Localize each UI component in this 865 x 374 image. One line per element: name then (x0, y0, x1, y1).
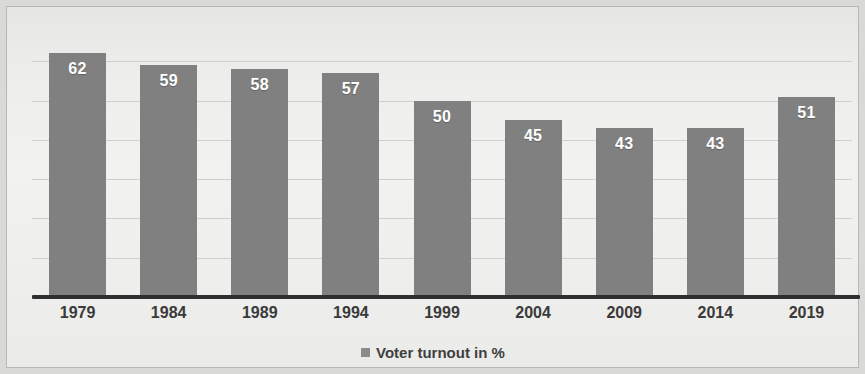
bar-value-label: 58 (231, 76, 288, 94)
x-axis-label: 2014 (671, 304, 759, 322)
bar[interactable]: 57 (322, 73, 379, 297)
chart-screenshot: 625958575045434351 197919841989199419992… (0, 0, 865, 374)
x-axis-label: 1979 (34, 304, 122, 322)
square-swatch-icon (361, 348, 370, 357)
bar[interactable]: 59 (140, 65, 197, 297)
x-axis-label: 1989 (216, 304, 304, 322)
bar[interactable]: 45 (505, 120, 562, 297)
x-axis-label: 1999 (398, 304, 486, 322)
bar[interactable]: 43 (687, 128, 744, 297)
bar-value-label: 43 (596, 135, 653, 153)
x-axis-label: 2004 (489, 304, 577, 322)
gridline (32, 61, 852, 62)
bar[interactable]: 58 (231, 69, 288, 297)
x-axis-label: 2009 (580, 304, 668, 322)
x-axis-label: 1994 (307, 304, 395, 322)
bar-value-label: 57 (322, 80, 379, 98)
x-axis-labels: 197919841989199419992004200920142019 (32, 304, 852, 330)
bar[interactable]: 51 (778, 97, 835, 297)
bar[interactable]: 62 (49, 53, 106, 297)
bar[interactable]: 43 (596, 128, 653, 297)
x-axis-label: 2019 (762, 304, 850, 322)
plot-area: 625958575045434351 (32, 22, 852, 297)
bar-value-label: 59 (140, 72, 197, 90)
x-axis-line (32, 295, 860, 299)
bar-chart: 625958575045434351 197919841989199419992… (14, 12, 852, 362)
x-axis-label: 1984 (125, 304, 213, 322)
bar-value-label: 45 (505, 127, 562, 145)
bar-value-label: 50 (414, 108, 471, 126)
legend-label: Voter turnout in % (376, 344, 505, 361)
bar-value-label: 62 (49, 60, 106, 78)
bar-value-label: 43 (687, 135, 744, 153)
bar-value-label: 51 (778, 104, 835, 122)
chart-legend: Voter turnout in % (14, 344, 852, 361)
bar[interactable]: 50 (414, 101, 471, 297)
